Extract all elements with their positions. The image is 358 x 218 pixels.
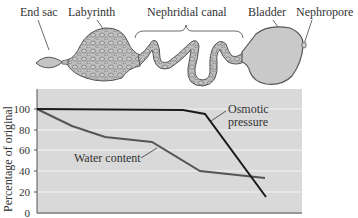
annotation-osmotic-line2: pressure — [228, 116, 268, 129]
y-axis-label: Percentage of original — [2, 106, 14, 212]
annotation-osmotic-line1: Osmotic — [228, 103, 269, 116]
line-chart — [0, 0, 358, 218]
annotation-water-content: Water content — [74, 152, 141, 165]
